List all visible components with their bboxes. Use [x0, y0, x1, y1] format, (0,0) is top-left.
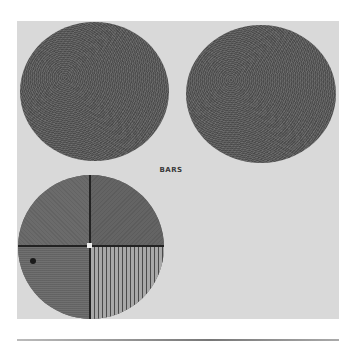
uniform-noise-disc-right: [186, 25, 336, 163]
uniform-noise-disc-left: [20, 22, 169, 161]
fixation-dot: [30, 258, 36, 264]
figure-panel: BARS: [17, 21, 339, 319]
quadrant-top-left: [18, 175, 90, 246]
quadrant-top-right: [90, 175, 164, 246]
quadrant-bottom-left: [18, 246, 90, 319]
center-marker: [87, 243, 92, 248]
bars-label: BARS: [151, 166, 191, 174]
quadrant-bottom-right-bars: [90, 246, 164, 319]
quadrant-disc: [18, 175, 164, 319]
